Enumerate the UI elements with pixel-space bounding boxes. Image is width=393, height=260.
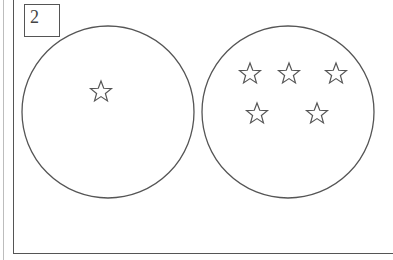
star-icon [279, 63, 300, 83]
star-icon [307, 103, 328, 123]
star-icon [247, 103, 268, 123]
star-icon [91, 81, 112, 101]
star-icon [240, 63, 261, 83]
left-circle [22, 26, 194, 198]
star-icon [326, 63, 347, 83]
right-circle [202, 26, 374, 198]
